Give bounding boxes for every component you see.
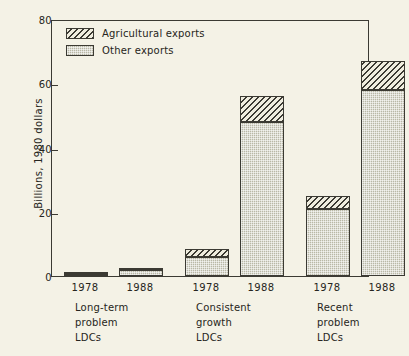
bar-segment-agricultural-exports: [119, 268, 163, 270]
legend: Agricultural exports Other exports: [66, 26, 205, 60]
bar-long-term-1978: [64, 274, 108, 276]
y-tick-label: 40: [22, 145, 52, 155]
bar-segment-other-exports: [119, 270, 163, 276]
bar-recent-1978: [306, 196, 350, 276]
legend-label-agricultural-exports: Agricultural exports: [102, 28, 205, 39]
legend-swatch-other-exports: [66, 45, 94, 56]
y-tick-label: 20: [22, 209, 52, 219]
x-group-label: Long-termproblemLDCs: [75, 300, 195, 345]
y-tick-label: 80: [22, 16, 52, 26]
bar-segment-agricultural-exports: [361, 61, 405, 90]
bar-recent-1988: [361, 61, 405, 276]
x-group-label-line: LDCs: [317, 330, 409, 345]
x-group-label-line: LDCs: [196, 330, 316, 345]
x-group-label-line: growth: [196, 315, 316, 330]
y-tick-label: 0: [22, 273, 52, 283]
x-year-label: 1978: [57, 282, 113, 293]
x-group-label-line: LDCs: [75, 330, 195, 345]
bar-segment-other-exports: [361, 90, 405, 276]
x-group-label-line: Long-term: [75, 300, 195, 315]
y-tick-label: 60: [22, 80, 52, 90]
bar-segment-agricultural-exports: [185, 249, 229, 257]
bar-consistent-1978: [185, 249, 229, 276]
bar-long-term-1988: [119, 268, 163, 276]
bar-segment-agricultural-exports: [306, 196, 350, 209]
x-year-label: 1988: [112, 282, 168, 293]
legend-swatch-agricultural-exports: [66, 28, 94, 39]
x-group-label-line: Consistent: [196, 300, 316, 315]
x-group-label: ConsistentgrowthLDCs: [196, 300, 316, 345]
x-group-label-line: problem: [75, 315, 195, 330]
bar-segment-agricultural-exports: [64, 272, 108, 274]
bar-segment-agricultural-exports: [240, 96, 284, 122]
legend-item-other-exports: Other exports: [66, 43, 205, 57]
x-year-label: 1978: [178, 282, 234, 293]
legend-item-agricultural-exports: Agricultural exports: [66, 26, 205, 40]
bar-segment-other-exports: [306, 209, 350, 276]
legend-label-other-exports: Other exports: [102, 45, 174, 56]
x-group-label-line: Recent: [317, 300, 409, 315]
x-group-label: RecentproblemLDCs: [317, 300, 409, 345]
bar-consistent-1988: [240, 96, 284, 276]
x-year-label: 1988: [354, 282, 409, 293]
bar-segment-other-exports: [240, 122, 284, 276]
x-year-label: 1978: [299, 282, 355, 293]
bar-segment-other-exports: [185, 257, 229, 276]
x-year-label: 1988: [233, 282, 289, 293]
x-group-label-line: problem: [317, 315, 409, 330]
